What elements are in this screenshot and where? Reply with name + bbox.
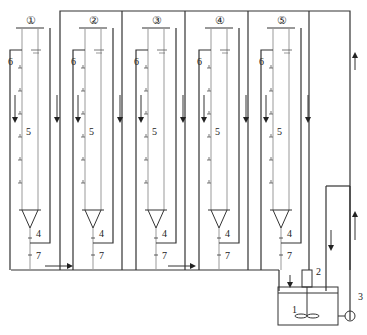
- label-outlet: 4: [36, 228, 41, 239]
- label-sampling-port: 6: [134, 56, 139, 67]
- column-label: ④: [215, 14, 225, 26]
- label-outlet: 4: [162, 228, 167, 239]
- label-motor: 2: [316, 266, 321, 277]
- column-label: ②: [89, 14, 99, 26]
- label-column-body: 5: [277, 126, 282, 137]
- column-label: ⑤: [277, 14, 287, 26]
- column-2: ②6547: [71, 14, 120, 270]
- label-outlet: 4: [99, 228, 104, 239]
- column-5: ⑤6547: [259, 14, 308, 270]
- column-label: ①: [26, 14, 36, 26]
- column-1: ①6547: [8, 14, 57, 270]
- label-column-body: 5: [26, 126, 31, 137]
- label-valve: 7: [162, 250, 167, 261]
- label-pump: 3: [358, 291, 363, 302]
- label-sampling-port: 6: [8, 56, 13, 67]
- label-column-body: 5: [89, 126, 94, 137]
- column-3: ③6547: [134, 14, 183, 270]
- label-valve: 7: [287, 250, 292, 261]
- label-valve: 7: [99, 250, 104, 261]
- label-outlet: 4: [225, 228, 230, 239]
- top-feed-line: [11, 11, 350, 270]
- label-valve: 7: [225, 250, 230, 261]
- column-4: ④6547: [197, 14, 246, 270]
- column-label: ③: [152, 14, 162, 26]
- label-valve: 7: [36, 250, 41, 261]
- label-sampling-port: 6: [71, 56, 76, 67]
- label-tank: 1: [292, 304, 297, 315]
- label-outlet: 4: [287, 228, 292, 239]
- label-sampling-port: 6: [259, 56, 264, 67]
- label-sampling-port: 6: [197, 56, 202, 67]
- label-column-body: 5: [152, 126, 157, 137]
- label-column-body: 5: [215, 126, 220, 137]
- reactor-system-diagram: ①6547②6547③6547④6547⑤6547 1 2 3: [0, 0, 367, 335]
